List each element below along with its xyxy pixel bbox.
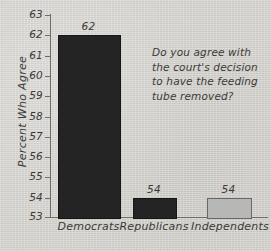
y-tick-mark: [45, 15, 50, 16]
y-axis-tick-labels: 63 62 61 60 59 58 57 56 55 54 53: [18, 0, 43, 251]
bar-independents[interactable]: [207, 198, 252, 219]
x-tick-label-republicans: Republicans: [117, 221, 191, 233]
bar-value-independents: 54: [207, 184, 250, 195]
y-tick-mark: [45, 117, 50, 118]
y-tick-label: 60: [21, 70, 43, 80]
bar-republicans[interactable]: [133, 198, 177, 219]
annotation-line: Do you agree with: [152, 45, 264, 60]
bar-value-republicans: 54: [133, 184, 175, 195]
y-tick-label: 63: [21, 9, 43, 19]
y-tick-label: 57: [21, 131, 43, 141]
y-tick-label: 58: [21, 111, 43, 121]
y-tick-mark: [45, 217, 50, 218]
x-tick-label-independents: Independents: [189, 221, 271, 233]
y-tick-mark: [45, 35, 50, 36]
y-tick-mark: [45, 76, 50, 77]
y-tick-mark: [45, 137, 50, 138]
y-tick-label: 56: [21, 151, 43, 161]
annotation-line: the court's decision: [152, 60, 264, 75]
y-tick-label: 59: [21, 90, 43, 100]
annotation-line: to have the feeding: [152, 74, 264, 89]
y-tick-label: 62: [21, 29, 43, 39]
bar-chart-figure: Percent Who Agree 63 62 61 60 59 58 57 5…: [0, 0, 271, 251]
bar-democrats[interactable]: [58, 35, 121, 219]
y-tick-mark: [45, 56, 50, 57]
bar-value-democrats: 62: [58, 21, 119, 32]
y-tick-mark: [45, 157, 50, 158]
chart-annotation: Do you agree with the court's decision t…: [152, 45, 264, 103]
y-tick-label: 55: [21, 171, 43, 181]
y-tick-mark: [45, 198, 50, 199]
y-tick-label: 53: [21, 211, 43, 221]
y-tick-label: 54: [21, 192, 43, 202]
annotation-line: tube removed?: [152, 89, 264, 104]
y-tick-mark: [45, 177, 50, 178]
y-axis-line: [50, 14, 51, 218]
y-tick-mark: [45, 96, 50, 97]
y-tick-label: 61: [21, 50, 43, 60]
